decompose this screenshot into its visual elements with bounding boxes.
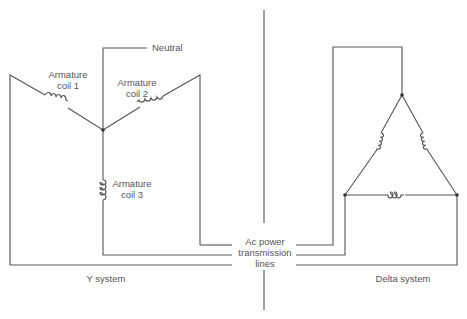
y-branch-2-wire-inner — [103, 107, 140, 130]
delta-right-node — [455, 193, 459, 197]
ac-power-transmission-label: Ac power transmission lines — [234, 236, 296, 269]
delta-system-caption: Delta system — [368, 273, 438, 284]
delta-coil-left-icon — [376, 133, 384, 151]
y-branch-1-wire-inner — [68, 108, 103, 130]
delta-line-a — [296, 47, 402, 245]
coil-1-label-line1: Armature — [44, 69, 92, 80]
y-branch-1-wire — [10, 75, 45, 265]
coil-3-label-line1: Armature — [108, 178, 156, 189]
diagram-canvas: Neutral Armature coil 1 Armature coil 2 … — [0, 0, 467, 319]
coil-2-label-line2: coil 2 — [113, 88, 161, 99]
y-branch-2-wire — [163, 75, 200, 245]
neutral-label: Neutral — [152, 42, 183, 53]
coil-1-label: Armature coil 1 — [44, 69, 92, 91]
delta-left-node — [343, 193, 347, 197]
delta-left-wire-top — [381, 95, 402, 133]
center-label-line1: Ac power — [234, 236, 296, 247]
coil-2-label: Armature coil 2 — [113, 77, 161, 99]
coil-3-label: Armature coil 3 — [108, 178, 156, 200]
delta-left-wire-bottom — [345, 151, 376, 195]
center-label-line2: transmission — [234, 247, 296, 258]
delta-top-node — [400, 93, 404, 97]
coil-1-label-line2: coil 1 — [44, 80, 92, 91]
delta-line-b — [296, 195, 345, 255]
coil-2-label-line1: Armature — [113, 77, 161, 88]
y-branch-3-wire-lower — [103, 200, 232, 255]
circuit-drawing — [0, 0, 467, 319]
delta-coil-right-icon — [420, 133, 428, 151]
delta-coil-bottom-icon — [388, 192, 404, 198]
delta-right-wire-top — [402, 95, 423, 133]
armature-coil-1-icon — [45, 92, 68, 101]
y-system-caption: Y system — [82, 273, 130, 284]
coil-3-label-line2: coil 3 — [108, 189, 156, 200]
armature-coil-3-icon — [100, 180, 106, 200]
center-label-line3: lines — [234, 258, 296, 269]
delta-right-wire-bottom — [428, 151, 457, 195]
y-center-node — [101, 128, 105, 132]
